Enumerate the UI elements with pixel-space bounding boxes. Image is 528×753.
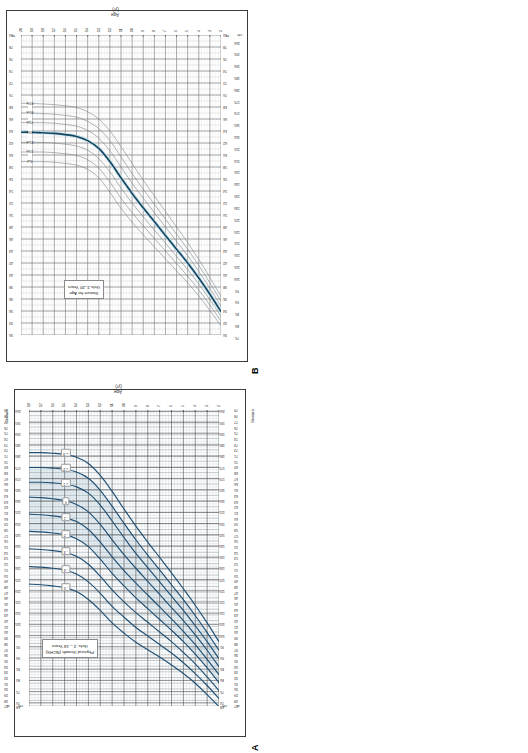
stature-tick-cm: 185: [16, 440, 20, 450]
stature-tick: 54: [223, 187, 227, 195]
stature-tick: 66: [9, 115, 13, 123]
stature-tick-cm: 95: [235, 286, 239, 296]
age-tick: 15: [74, 28, 78, 32]
stature-tick-cm: 140: [235, 179, 239, 189]
age-tick: 8: [152, 30, 156, 32]
age-tick: 13: [86, 403, 90, 407]
stature-tick: 62: [9, 139, 13, 147]
age-tick: 11: [110, 403, 114, 407]
sd-label--2-sd: - 2: [61, 530, 70, 538]
stature-tick: 58: [9, 163, 13, 171]
age-tick: 13: [97, 28, 101, 32]
panel-a-curves: [29, 410, 219, 706]
stature-tick-cm: 95: [16, 642, 20, 652]
age-tick: 9: [141, 30, 145, 32]
stature-tick: 60: [223, 151, 227, 159]
stature-tick-cm: 170: [16, 474, 20, 484]
panel-a-stature-label-left: Stature: [250, 409, 255, 423]
stature-tick: 64: [9, 127, 13, 135]
stature-tick-cm: 90: [220, 653, 224, 663]
stature-tick: 40: [223, 271, 227, 279]
stature-tick: 66: [223, 115, 227, 123]
stature-tick-cm: 75: [235, 333, 239, 343]
stature-tick-cm: 155: [16, 507, 20, 517]
stature-tick-cm: 150: [235, 156, 239, 166]
percentile-label-50th: 50th: [28, 126, 32, 136]
sd-label--3-sd: - 3: [61, 548, 70, 556]
age-tick: 14: [74, 403, 78, 407]
age-tick: 2: [217, 405, 221, 407]
stature-tick-cm: 85: [220, 664, 224, 674]
stature-tick-cm: 190: [235, 61, 239, 71]
stature-tick-cm: 130: [16, 563, 20, 573]
panel-b-title-box: Stature for Age / Girls 2–20 Years Statu…: [64, 280, 104, 299]
stature-tick-cm: 80: [220, 675, 224, 685]
age-tick: 17: [39, 403, 43, 407]
age-tick: 4: [193, 405, 197, 407]
panel-a-physical-growth: A 68707580859095100105110115120125130135…: [0, 376, 264, 753]
stature-tick-in: 79: [234, 407, 238, 414]
panel-a-chart-frame: 6870758085909510010511011512012513013514…: [14, 389, 246, 737]
percentile-label-97th: 97th: [28, 97, 32, 107]
stature-tick-cm: 135: [16, 552, 20, 562]
age-tick: 5: [185, 30, 189, 32]
age-tick: 10: [122, 403, 126, 407]
stature-tick-cm: 115: [220, 597, 224, 607]
age-tick: 10: [130, 28, 134, 32]
panel-b-chart-frame: 8078767472706866646260585654525048464442…: [6, 10, 248, 362]
age-tick: 12: [98, 403, 102, 407]
stature-unit-label-in: in: [4, 703, 8, 710]
stature-tick-cm: 190: [220, 429, 224, 439]
stature-tick: 38: [223, 283, 227, 291]
stature-tick-cm: 180: [16, 451, 20, 461]
panel-b-age-axis-label: Age (yr): [111, 7, 119, 17]
stature-tick: 54: [9, 187, 13, 195]
stature-tick-cm: 175: [235, 97, 239, 107]
stature-tick: 70: [223, 91, 227, 99]
stature-tick: 36: [223, 295, 227, 303]
sd-label--3-sd: + 3: [60, 450, 70, 458]
panel-a-plot-area: [29, 410, 219, 706]
stature-tick: 48: [223, 223, 227, 231]
stature-tick-cm: 125: [235, 215, 239, 225]
panel-a-stature-axis-in-top: 2728293031323334353637383940414243444546…: [3, 410, 15, 706]
stature-tick-cm: 95: [220, 642, 224, 652]
stature-tick-cm: 110: [235, 250, 239, 260]
stature-tick-cm: 180: [235, 85, 239, 95]
stature-tick: 42: [9, 259, 13, 267]
stature-tick-cm: 145: [16, 530, 20, 540]
stature-tick: 50: [9, 211, 13, 219]
percentile-label-75th: 75th: [28, 117, 32, 127]
stature-tick-cm: 160: [16, 496, 20, 506]
stature-tick: 34: [9, 307, 13, 315]
stature-tick: 36: [9, 295, 13, 303]
stature-tick-cm: 165: [16, 485, 20, 495]
panel-a-title-text-2: Girls: 2 – 18 Years: [46, 642, 94, 648]
age-tick: 16: [63, 28, 67, 32]
age-tick: 4: [197, 30, 201, 32]
stature-tick-cm: 155: [235, 144, 239, 154]
stature-tick-cm: 85: [235, 309, 239, 319]
stature-tick-cm: 100: [16, 631, 20, 641]
stature-tick-cm: 145: [220, 530, 224, 540]
stature-tick: 52: [9, 199, 13, 207]
age-tick: 3: [208, 30, 212, 32]
panel-a-letter: A: [250, 745, 260, 752]
stature-tick: 68: [9, 103, 13, 111]
panel-a-stature-axis-cm-bottom: 6870758085909510010511011512012513013514…: [219, 410, 233, 706]
panel-b-curves: [21, 35, 221, 335]
panel-a-title-text-1: Physical Growth (NCHS): [46, 648, 94, 654]
age-tick: 14: [85, 28, 89, 32]
stature-tick-cm: 125: [220, 575, 224, 585]
stature-tick: 38: [9, 283, 13, 291]
stature-tick-cm: 170: [235, 108, 239, 118]
stature-tick: 40: [9, 271, 13, 279]
stature-tick-cm: 145: [235, 167, 239, 177]
stature-tick-cm: 160: [235, 132, 239, 142]
stature-tick: 48: [9, 223, 13, 231]
stature-tick-cm: 105: [16, 619, 20, 629]
age-tick: 8: [146, 405, 150, 407]
stature-tick: 50: [223, 211, 227, 219]
stature-unit-label-cm: cm: [235, 30, 239, 40]
panel-b-plot-area: [21, 35, 221, 335]
